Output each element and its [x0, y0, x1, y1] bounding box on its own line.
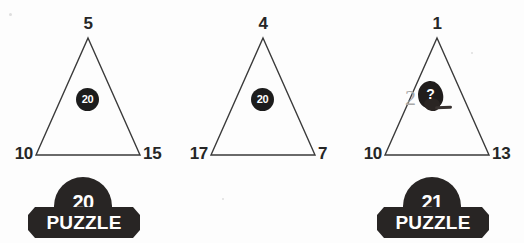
puzzle-badge-3-banner: PUZZLE — [377, 207, 489, 238]
triangle-1-center-value: 20 — [82, 94, 93, 105]
puzzle-badge-1-label: PUZZLE — [46, 213, 121, 232]
triangle-3-center-scribble: 2 ? — [405, 81, 459, 115]
puzzle-group-3: 1 10 13 2 ? 21 PUZZLE — [349, 0, 524, 243]
puzzle-badge-1-banner: PUZZLE — [28, 207, 140, 238]
triangle-figure-3: 1 10 13 2 ? — [349, 0, 524, 175]
triangle-1-apex-value: 5 — [83, 15, 92, 32]
triangle-figure-2: 4 17 7 20 — [175, 0, 350, 175]
triangle-2-apex-value: 4 — [258, 15, 267, 32]
triangle-3-bottom-right-value: 13 — [492, 145, 510, 162]
puzzle-page: 5 10 15 20 20 PUZZLE 4 17 7 — [0, 0, 524, 243]
triangle-2-bottom-left-value: 17 — [190, 145, 208, 162]
triangle-3-apex-value: 1 — [432, 15, 441, 32]
triangle-3-unknown-marker: ? — [422, 87, 439, 101]
ink-smudge-tail — [435, 106, 452, 110]
triangle-2-bottom-right-value: 7 — [318, 145, 327, 162]
puzzle-badge-3: 21 PUZZLE — [377, 177, 489, 243]
triangle-1-bottom-left-value: 10 — [15, 145, 33, 162]
puzzle-group-2: 4 17 7 20 — [175, 0, 350, 243]
puzzle-group-1: 5 10 15 20 20 PUZZLE — [0, 0, 175, 243]
triangle-3-center-partial-digit: 2 — [405, 87, 416, 109]
triangle-figure-1: 5 10 15 20 — [0, 0, 175, 175]
triangle-1-center-disc: 20 — [76, 88, 99, 111]
triangle-1-bottom-right-value: 15 — [143, 145, 161, 162]
triangle-2-center-value: 20 — [257, 94, 268, 105]
puzzle-badge-3-label: PUZZLE — [395, 213, 470, 232]
triangle-3-bottom-left-value: 10 — [364, 145, 382, 162]
puzzle-badge-1: 20 PUZZLE — [28, 177, 140, 243]
triangle-2-center-disc: 20 — [251, 88, 274, 111]
